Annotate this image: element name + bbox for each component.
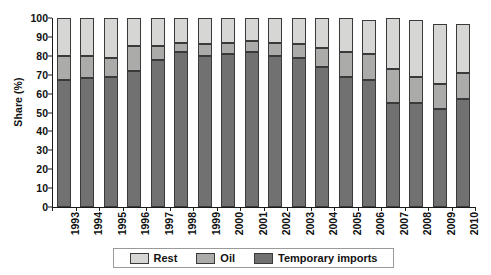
x-tick-label: 2006 — [374, 212, 386, 235]
bar-segment-temp — [339, 77, 353, 207]
y-axis-title: Share (%) — [12, 62, 24, 142]
bar-segment-rest — [151, 18, 165, 46]
y-tick-mark — [48, 169, 52, 170]
bar-segment-oil — [57, 56, 71, 81]
bar-segment-oil — [315, 48, 329, 67]
y-tick-label: 100 — [30, 12, 48, 24]
y-tick-mark — [48, 188, 52, 189]
x-tick-label: 2008 — [421, 212, 433, 235]
bar-segment-rest — [268, 18, 282, 43]
y-tick-label: 80 — [36, 50, 48, 62]
y-tick-label: 60 — [36, 88, 48, 100]
bar-segment-temp — [315, 67, 329, 207]
y-tick-label: 10 — [36, 182, 48, 194]
bar-2005 — [339, 18, 353, 207]
bar-segment-oil — [268, 43, 282, 56]
x-tick-mark — [52, 207, 53, 211]
x-tick-mark — [240, 207, 241, 211]
bar-segment-temp — [362, 80, 376, 207]
bar-1995 — [104, 18, 118, 207]
stacked-bar-chart: Share (%) 0102030405060708090100 1993199… — [0, 0, 491, 275]
x-tick-label: 1997 — [163, 212, 175, 235]
y-tick-label: 70 — [36, 69, 48, 81]
x-tick-mark — [217, 207, 218, 211]
bar-segment-rest — [292, 18, 306, 44]
bar-segment-temp — [268, 56, 282, 207]
bar-segment-rest — [386, 18, 400, 69]
y-tick-label: 90 — [36, 31, 48, 43]
bar-segment-rest — [198, 18, 212, 44]
bar-segment-rest — [174, 18, 188, 43]
x-tick-mark — [123, 207, 124, 211]
x-tick-mark — [405, 207, 406, 211]
bar-segment-temp — [174, 52, 188, 207]
bar-segment-rest — [127, 18, 141, 46]
x-tick-mark — [170, 207, 171, 211]
bar-segment-oil — [221, 43, 235, 54]
x-tick-label: 1993 — [69, 212, 81, 235]
x-tick-label: 2009 — [445, 212, 457, 235]
bar-segment-oil — [80, 56, 94, 79]
x-tick-label: 1998 — [186, 212, 198, 235]
y-tick-mark — [48, 93, 52, 94]
bar-segment-temp — [127, 71, 141, 207]
bar-segment-rest — [362, 20, 376, 54]
bar-segment-rest — [409, 20, 423, 77]
legend-swatch-temp — [254, 253, 273, 264]
x-tick-label: 1995 — [116, 212, 128, 235]
x-tick-label: 1994 — [92, 212, 104, 235]
bar-segment-oil — [245, 41, 259, 52]
y-tick-label: 20 — [36, 163, 48, 175]
x-tick-mark — [287, 207, 288, 211]
x-tick-mark — [334, 207, 335, 211]
x-tick-mark — [381, 207, 382, 211]
bar-2003 — [292, 18, 306, 207]
y-tick-mark — [48, 74, 52, 75]
x-tick-label: 2005 — [351, 212, 363, 235]
x-tick-mark — [146, 207, 147, 211]
x-tick-mark — [452, 207, 453, 211]
bar-segment-rest — [80, 18, 94, 56]
bar-segment-oil — [198, 44, 212, 55]
y-tick-label: 40 — [36, 125, 48, 137]
bar-segment-temp — [386, 103, 400, 207]
bar-2008 — [409, 18, 423, 207]
y-tick-mark — [48, 112, 52, 113]
x-tick-mark — [428, 207, 429, 211]
x-tick-label: 2001 — [257, 212, 269, 235]
bar-segment-temp — [104, 77, 118, 207]
bar-segment-temp — [409, 103, 423, 207]
x-tick-mark — [264, 207, 265, 211]
bar-segment-oil — [362, 54, 376, 80]
legend-swatch-rest — [130, 253, 149, 264]
bar-segment-rest — [339, 18, 353, 52]
bar-segment-oil — [456, 73, 470, 99]
y-tick-mark — [48, 36, 52, 37]
bar-segment-rest — [221, 18, 235, 43]
bar-segment-temp — [151, 60, 165, 207]
x-tick-label: 2007 — [398, 212, 410, 235]
bar-segment-temp — [433, 109, 447, 207]
chart-legend: RestOilTemporary imports — [113, 248, 394, 268]
x-tick-mark — [193, 207, 194, 211]
bar-1998 — [174, 18, 188, 207]
bar-segment-oil — [433, 84, 447, 109]
bar-2004 — [315, 18, 329, 207]
x-tick-label: 2003 — [304, 212, 316, 235]
bar-2010 — [456, 18, 470, 207]
bar-2002 — [268, 18, 282, 207]
bar-segment-oil — [104, 58, 118, 77]
bar-1994 — [80, 18, 94, 207]
x-tick-label: 1999 — [210, 212, 222, 235]
y-tick-mark — [48, 55, 52, 56]
bar-2009 — [433, 18, 447, 207]
x-tick-label: 2002 — [280, 212, 292, 235]
bar-segment-temp — [245, 52, 259, 207]
bar-segment-oil — [386, 69, 400, 103]
bar-segment-oil — [339, 52, 353, 77]
y-tick-mark — [48, 18, 52, 19]
legend-label: Oil — [220, 252, 235, 264]
bar-segment-temp — [221, 54, 235, 207]
legend-swatch-oil — [196, 253, 215, 264]
bar-2001 — [245, 18, 259, 207]
